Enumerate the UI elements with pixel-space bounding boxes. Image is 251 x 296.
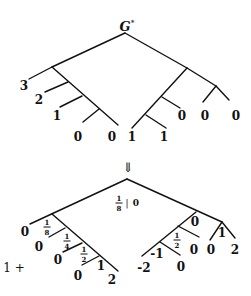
leaf-label: 0 (54, 254, 62, 266)
game-title: G* (120, 19, 135, 32)
node-fraction: 18 (44, 219, 51, 236)
leaf-label: 0 (201, 110, 209, 122)
root-right-value: 0 (133, 199, 139, 208)
leaf-label: 0 (74, 270, 82, 282)
leaf-label: 0 (177, 261, 185, 273)
node-value: -1 (150, 248, 163, 260)
node-fraction: 12 (81, 246, 88, 263)
leaf-label: 1 (160, 131, 168, 143)
leaf-label: 2 (108, 274, 116, 286)
leaf-label: 0 (21, 226, 29, 238)
node-fraction: 14 (64, 233, 71, 250)
leaf-label: 0 (178, 110, 186, 122)
node-value: 0 (191, 216, 199, 228)
game-tree-diagram: G* 3 2 1 0 0 1 1 0 0 0 ⇓ 18 | 0 1 + 0 0 … (0, 0, 251, 296)
node-value: 1 (218, 227, 226, 239)
leaf-label: 0 (190, 244, 198, 256)
root-fraction: 18 (116, 195, 123, 212)
leaf-label: 1 (53, 110, 61, 122)
leaf-label: 0 (108, 131, 116, 143)
leaf-label: 1 (128, 131, 136, 143)
leaf-label: 0 (232, 110, 240, 122)
prefix-label: 1 + (3, 262, 25, 274)
leaf-label: 2 (35, 94, 43, 106)
leaf-label: 0 (207, 244, 215, 256)
node-value: 1 (97, 260, 105, 272)
leaf-label: 3 (20, 80, 28, 92)
down-arrow-icon: ⇓ (123, 161, 134, 174)
root-separator: | (125, 199, 128, 208)
leaf-label: 0 (74, 131, 82, 143)
node-fraction: 12 (174, 232, 181, 249)
leaf-label: 2 (231, 244, 239, 256)
leaf-label: 0 (35, 241, 43, 253)
leaf-label: -2 (137, 262, 150, 274)
